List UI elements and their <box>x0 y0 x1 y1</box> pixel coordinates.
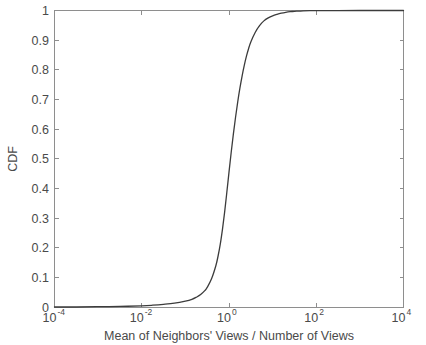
x-tick-exponent: 0 <box>232 307 237 317</box>
y-tick-label: 0.1 <box>32 271 49 285</box>
x-tick-base: 10 <box>217 311 231 325</box>
x-tick-base: 10 <box>130 311 144 325</box>
x-tick-exponent: 2 <box>319 307 324 317</box>
y-tick-label: 0.7 <box>32 93 49 107</box>
x-tick-base: 10 <box>304 311 318 325</box>
y-tick-label: 0.5 <box>32 152 49 166</box>
y-tick-label: 0.4 <box>32 182 49 196</box>
y-tick-label: 0.6 <box>32 123 49 137</box>
x-tick-base: 10 <box>392 311 406 325</box>
x-tick-exponent: 4 <box>407 307 412 317</box>
x-tick-exponent: -2 <box>145 307 153 317</box>
cdf-figure: 10-410-2100102104 00.10.20.30.40.50.60.7… <box>0 0 426 345</box>
y-axis-title: CDF <box>6 146 20 172</box>
figure-background <box>0 0 426 345</box>
y-tick-label: 0 <box>42 301 49 315</box>
y-tick-label: 1 <box>42 4 49 18</box>
y-tick-label: 0.2 <box>32 241 49 255</box>
y-tick-label: 0.9 <box>32 34 49 48</box>
y-tick-label: 0.3 <box>32 212 49 226</box>
cdf-plot: 10-410-2100102104 00.10.20.30.40.50.60.7… <box>0 0 426 345</box>
x-axis-title: Mean of Neighbors' Views / Number of Vie… <box>104 329 354 343</box>
y-tick-label: 0.8 <box>32 63 49 77</box>
x-tick-exponent: -4 <box>58 307 66 317</box>
